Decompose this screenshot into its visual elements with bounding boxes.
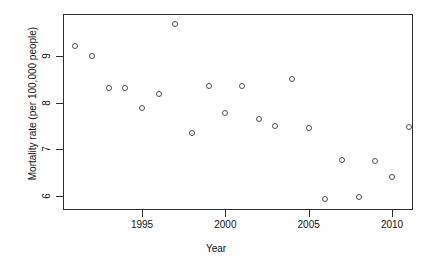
x-tick-mark [142, 210, 143, 217]
x-tick-label: 2000 [205, 219, 245, 230]
chart-canvas: Mortality rate (per 100,000 people) Year… [0, 0, 432, 273]
y-tick-mark [56, 103, 63, 104]
data-point [156, 91, 162, 97]
data-point [272, 123, 278, 129]
x-tick-mark [392, 210, 393, 217]
y-tick-label: 8 [40, 96, 54, 110]
data-point [189, 130, 195, 136]
data-point [339, 157, 345, 163]
y-tick-mark [56, 196, 63, 197]
data-point [306, 125, 312, 131]
y-tick-label: 9 [40, 49, 54, 63]
x-tick-label: 1995 [122, 219, 162, 230]
y-axis-label: Mortality rate (per 100,000 people) [27, 4, 38, 204]
data-point [389, 174, 395, 180]
y-tick-label: 7 [40, 142, 54, 156]
x-tick-label: 2010 [372, 219, 412, 230]
data-point [89, 53, 95, 59]
x-axis-label: Year [0, 243, 432, 254]
x-tick-mark [309, 210, 310, 217]
data-point [106, 85, 112, 91]
y-tick-label: 6 [40, 189, 54, 203]
y-tick-mark [56, 56, 63, 57]
y-tick-mark [56, 149, 63, 150]
data-point [356, 194, 362, 200]
plot-area [63, 14, 413, 210]
x-tick-label: 2005 [289, 219, 329, 230]
x-tick-mark [225, 210, 226, 217]
data-point [206, 83, 212, 89]
